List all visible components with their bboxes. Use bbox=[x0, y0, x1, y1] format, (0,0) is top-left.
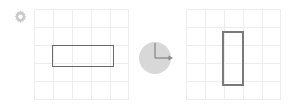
rectangle-vertical[interactable] bbox=[222, 31, 244, 86]
panel-after-rotation bbox=[186, 9, 281, 100]
gear-icon[interactable] bbox=[14, 10, 27, 23]
panel-before-rotation bbox=[34, 9, 129, 100]
rectangle-horizontal[interactable] bbox=[52, 45, 114, 67]
rotation-angle-dial[interactable] bbox=[138, 40, 174, 76]
rotation-diagram-canvas bbox=[0, 0, 290, 108]
